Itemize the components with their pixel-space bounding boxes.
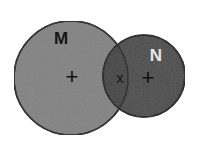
point-marker-intersection[interactable]: x bbox=[117, 70, 124, 86]
point-marker-m-only[interactable]: + bbox=[66, 64, 79, 89]
venn-diagram-figure: M N + x + bbox=[0, 0, 200, 150]
point-marker-n-only[interactable]: + bbox=[142, 65, 155, 90]
venn-diagram-canvas: M N + x + bbox=[0, 0, 200, 150]
set-label-m: M bbox=[54, 29, 68, 48]
set-label-n: N bbox=[150, 46, 162, 65]
